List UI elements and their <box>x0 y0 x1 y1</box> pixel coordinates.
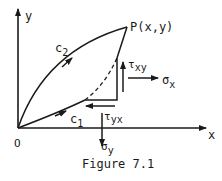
y-axis-label: y <box>25 9 32 23</box>
step-path <box>85 58 117 100</box>
origin-label: O <box>14 137 21 150</box>
c1-label: c1 <box>70 112 83 129</box>
x-axis-label: x <box>208 128 215 142</box>
tau-yx-label: τyx <box>104 110 123 125</box>
figure-canvas: y x O c2 c1 P(x,y) τxy σx τyx σy Figure … <box>0 0 222 181</box>
sigma-x-label: σx <box>162 73 175 90</box>
point-p-label: P(x,y) <box>130 20 173 34</box>
c2-label: c2 <box>55 41 68 58</box>
sigma-y-label: σy <box>101 140 114 156</box>
figure-caption: Figure 7.1 <box>82 157 154 171</box>
tau-xy-label: τxy <box>128 58 147 73</box>
